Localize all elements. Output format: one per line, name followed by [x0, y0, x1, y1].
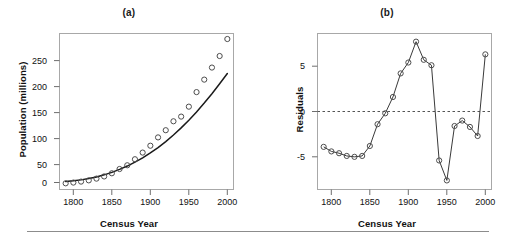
panel-a-frame	[60, 34, 234, 190]
data-point-marker	[140, 150, 145, 155]
data-point-marker	[148, 143, 153, 148]
panel-a-y-ticks	[54, 61, 60, 183]
data-point-marker	[163, 128, 168, 133]
chart-panel-a: (a)	[0, 0, 258, 238]
panel-b-xtick-2000: 2000	[470, 197, 500, 207]
footer-divider	[27, 231, 489, 232]
panel-a-xtick-1900: 1900	[135, 197, 165, 207]
panel-b-xtick-1950: 1950	[432, 197, 462, 207]
panel-a-xtick-1850: 1850	[97, 197, 127, 207]
data-point-marker	[155, 135, 160, 140]
chart-panel-b: (b) 5 0 -5 1800 18	[258, 0, 516, 238]
panel-b-y-ticks	[312, 66, 318, 157]
figure-container: (a)	[0, 0, 516, 238]
panel-a-yaxis-title: Population (millions)	[17, 45, 28, 175]
data-point-marker	[171, 119, 176, 124]
panel-a-xtick-1800: 1800	[58, 197, 88, 207]
data-point-marker	[202, 77, 207, 82]
panel-a-xaxis-title: Census Year	[0, 218, 258, 229]
panel-a-x-ticks	[73, 190, 227, 196]
data-point-marker	[179, 114, 184, 119]
data-point-marker	[132, 157, 137, 162]
panel-a-data-points	[63, 36, 230, 185]
data-point-marker	[217, 53, 222, 58]
data-point-marker	[225, 36, 230, 41]
panel-b-xtick-1850: 1850	[355, 197, 385, 207]
panel-b-xaxis-title: Census Year	[258, 218, 516, 229]
panel-b-x-ticks	[331, 190, 485, 196]
panel-a-ytick-0: 0	[22, 178, 47, 188]
panel-a-xtick-2000: 2000	[212, 197, 242, 207]
panel-a-xtick-1950: 1950	[174, 197, 204, 207]
data-point-marker	[194, 90, 199, 95]
panel-b-xtick-1900: 1900	[393, 197, 423, 207]
data-point-marker	[209, 65, 214, 70]
data-point-marker	[186, 104, 191, 109]
panel-b-xtick-1800: 1800	[316, 197, 346, 207]
panel-b-yaxis-title: Residuals	[294, 45, 305, 175]
panel-a-fitted-curve	[66, 74, 228, 182]
